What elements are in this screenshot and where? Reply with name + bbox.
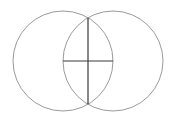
vesica-piscis-diagram [0, 0, 170, 121]
segments-group [63, 18, 113, 105]
